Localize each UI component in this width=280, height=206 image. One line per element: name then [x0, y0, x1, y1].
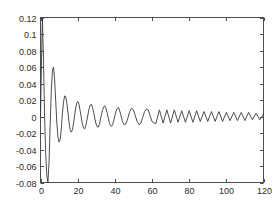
y-axis-tick-labels: -0.08-0.06-0.04-0.0200.020.040.060.080.1… — [16, 14, 37, 189]
plot-box-border — [41, 18, 264, 183]
y-tick-label: 0 — [31, 113, 36, 123]
y-tick-label: 0.1 — [24, 30, 37, 40]
y-tick-label: 0.04 — [19, 80, 37, 90]
y-tick-label: -0.04 — [16, 146, 37, 156]
x-tick-label: 60 — [147, 186, 157, 196]
y-tick-label: -0.06 — [16, 162, 37, 172]
y-tick-label: -0.02 — [16, 129, 37, 139]
y-tick-label: 0.06 — [19, 63, 37, 73]
chart-canvas: -0.08-0.06-0.04-0.0200.020.040.060.080.1… — [0, 0, 280, 206]
y-tick-label: -0.08 — [16, 179, 37, 189]
x-tick-label: 100 — [219, 186, 234, 196]
y-tick-label: 0.02 — [19, 96, 37, 106]
y-axis-tick-marks — [41, 19, 264, 184]
y-tick-label: 0.08 — [19, 47, 37, 57]
x-tick-label: 40 — [110, 186, 120, 196]
x-axis-tick-labels: 020406080100120 — [39, 186, 272, 196]
x-tick-label: 0 — [39, 186, 44, 196]
y-tick-label: 0.12 — [19, 14, 37, 24]
x-axis-tick-marks — [42, 18, 265, 183]
figure-container: -0.08-0.06-0.04-0.0200.020.040.060.080.1… — [0, 0, 280, 206]
damped-oscillation-line — [41, 18, 264, 183]
x-tick-label: 120 — [257, 186, 272, 196]
x-tick-label: 20 — [73, 186, 83, 196]
x-tick-label: 80 — [184, 186, 194, 196]
